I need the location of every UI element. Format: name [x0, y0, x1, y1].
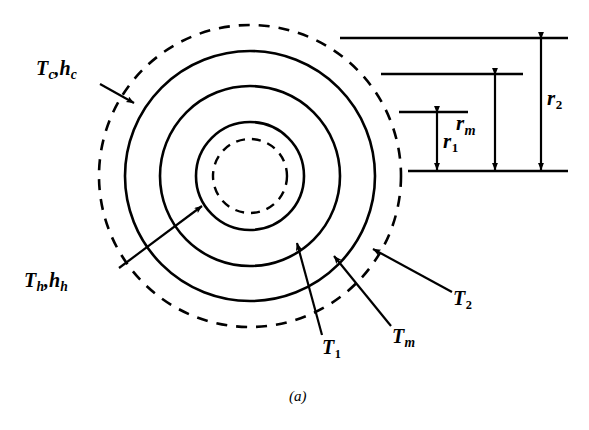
label-temp-inner: T1: [322, 337, 341, 360]
label-dimension-rm-sub: m: [464, 122, 475, 138]
label-temp-inner-sub: 1: [334, 347, 341, 361]
label-dimension-r2-sub: 2: [555, 97, 562, 112]
label-hot-fluid-text: T: [24, 269, 36, 291]
label-dimension-rm-text: r: [456, 111, 464, 135]
label-dimension-r2: r2: [547, 88, 562, 111]
label-dimension-r1-sub: 1: [451, 140, 458, 155]
figure-container: Tc,hc Th,hh T1 Tm T2 r1 rm r2 (a): [0, 0, 589, 430]
label-temp-mean-sub: m: [404, 335, 415, 350]
label-temp-outer: T2: [453, 288, 472, 311]
label-hot-fluid-text2: h: [49, 269, 60, 291]
hot-boundary-layer-circle: [213, 139, 287, 213]
label-cold-fluid-text2: h: [59, 57, 70, 79]
label-hot-fluid-sub2: h: [60, 279, 68, 294]
figure-caption: (a): [289, 388, 307, 405]
label-cold-fluid: Tc,hc: [36, 58, 77, 82]
label-dimension-r1-text: r: [443, 129, 451, 153]
outer-wall-circle: [125, 51, 375, 301]
label-dimension-r2-text: r: [547, 86, 555, 110]
label-cold-fluid-text: T: [36, 57, 48, 79]
label-cold-fluid-sub2: c: [71, 67, 77, 82]
concentric-circle-diagram: [0, 0, 589, 430]
label-temp-inner-text: T: [322, 336, 334, 358]
label-temp-outer-text: T: [453, 287, 465, 309]
label-hot-fluid: Th,hh: [24, 270, 68, 294]
label-dimension-rm: rm: [456, 113, 475, 137]
label-hot-fluid-sub: h: [36, 279, 44, 294]
leader-line-temp-outer: [373, 249, 452, 292]
leader-line-temp-mean: [334, 256, 391, 326]
label-temp-mean-text: T: [392, 325, 404, 347]
mean-radius-circle: [160, 86, 340, 266]
label-temp-outer-sub: 2: [465, 298, 472, 312]
label-temp-mean: Tm: [392, 326, 415, 350]
